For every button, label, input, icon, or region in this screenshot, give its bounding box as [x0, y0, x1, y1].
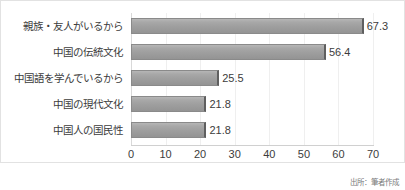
x-tick-40: 40	[257, 148, 281, 160]
chart-frame: 親族・友人がいるから 67.3 中国の伝統文化 56.4 中国語を学んでいるから…	[0, 0, 405, 163]
bar-value-4: 21.8	[206, 122, 230, 138]
bar-3[interactable]	[131, 96, 206, 112]
chart-row: 中国語を学んでいるから 25.5	[1, 65, 405, 91]
x-tick-20: 20	[188, 148, 212, 160]
bar-2[interactable]	[131, 70, 219, 86]
x-tick-70: 70	[361, 148, 385, 160]
x-tick-50: 50	[292, 148, 316, 160]
chart-row: 親族・友人がいるから 67.3	[1, 13, 405, 39]
bar-value-0: 67.3	[364, 18, 388, 34]
x-tick-0: 0	[119, 148, 143, 160]
x-axis-line	[131, 145, 374, 146]
x-tick-10: 10	[154, 148, 178, 160]
category-label: 中国語を学んでいるから	[1, 65, 123, 91]
bar-value-3: 21.8	[206, 96, 230, 112]
category-label: 中国の伝統文化	[1, 39, 123, 65]
category-label: 中国人の国民性	[1, 117, 123, 143]
bar-0[interactable]	[131, 18, 364, 34]
bar-value-1: 56.4	[326, 44, 350, 60]
bar-4[interactable]	[131, 122, 206, 138]
chart-row: 中国の現代文化 21.8	[1, 91, 405, 117]
category-label: 中国の現代文化	[1, 91, 123, 117]
source-note: 出所：筆者作成	[350, 176, 399, 187]
x-tick-30: 30	[223, 148, 247, 160]
chart-row: 中国の伝統文化 56.4	[1, 39, 405, 65]
bar-1[interactable]	[131, 44, 326, 60]
chart-row: 中国人の国民性 21.8	[1, 117, 405, 143]
bar-value-2: 25.5	[219, 70, 243, 86]
x-tick-60: 60	[326, 148, 350, 160]
category-label: 親族・友人がいるから	[1, 13, 123, 39]
chart-screenshot: 親族・友人がいるから 67.3 中国の伝統文化 56.4 中国語を学んでいるから…	[0, 0, 405, 190]
